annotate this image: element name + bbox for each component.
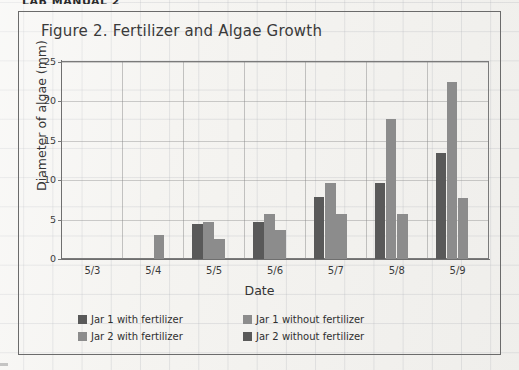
scan-artifact (0, 363, 8, 366)
category-separator (305, 62, 306, 259)
x-tick-5-8: 5/8 (367, 265, 427, 276)
legend-label: Jar 2 without fertilizer (256, 331, 364, 342)
legend-swatch-icon (78, 332, 87, 341)
x-axis-title: Date (0, 283, 519, 298)
bar-5-5-series-2 (214, 239, 225, 259)
bar-5-5-series-0 (192, 224, 203, 259)
bar-5-7-series-1 (325, 183, 336, 259)
legend-swatch-icon (78, 315, 87, 324)
gridline-h-10 (62, 180, 488, 181)
bar-5-8-series-2 (397, 214, 408, 259)
bar-5-6-series-2 (275, 230, 286, 259)
category-separator (366, 62, 367, 259)
bar-5-9-series-0 (436, 153, 447, 259)
y-tick-5: 5 (30, 214, 56, 225)
x-tick-5-3: 5/3 (62, 265, 122, 276)
page-header-text: LAB MANUAL 2 (22, 0, 120, 4)
bar-5-8-series-0 (375, 183, 386, 259)
chart-legend: Jar 1 with fertilizerJar 1 without ferti… (78, 311, 408, 345)
chart-title: Figure 2. Fertilizer and Algae Growth (41, 22, 322, 40)
legend-item: Jar 2 without fertilizer (243, 331, 408, 342)
bar-5-8-series-1 (386, 119, 397, 259)
x-tick-5-7: 5/7 (306, 265, 366, 276)
x-tick-5-9: 5/9 (428, 265, 488, 276)
category-separator (122, 62, 123, 259)
legend-label: Jar 2 with fertilizer (91, 331, 183, 342)
y-axis-title: Diameter of algae (mm) (34, 31, 49, 201)
bar-5-9-series-1 (447, 82, 458, 259)
legend-label: Jar 1 with fertilizer (91, 314, 183, 325)
legend-item: Jar 2 with fertilizer (78, 331, 243, 342)
gridline-h-25 (62, 62, 488, 63)
bar-5-7-series-0 (314, 197, 325, 259)
legend-swatch-icon (243, 315, 252, 324)
y-tick-0: 0 (30, 253, 56, 264)
x-tick-5-4: 5/4 (123, 265, 183, 276)
legend-swatch-icon (243, 332, 252, 341)
category-separator (244, 62, 245, 259)
bar-5-5-series-1 (203, 222, 214, 259)
x-tick-5-6: 5/6 (245, 265, 305, 276)
gridline-h-5 (62, 220, 488, 221)
bar-5-6-series-0 (253, 222, 264, 259)
category-separator (427, 62, 428, 259)
x-tick-5-5: 5/5 (184, 265, 244, 276)
legend-row: Jar 2 with fertilizerJar 2 without ferti… (78, 328, 408, 345)
category-separator (183, 62, 184, 259)
plot-area (62, 62, 488, 259)
bar-5-7-series-2 (336, 214, 347, 259)
bar-5-9-series-2 (458, 198, 469, 259)
gridline-h-15 (62, 141, 488, 142)
bar-5-4-series-2 (154, 235, 165, 259)
legend-row: Jar 1 with fertilizerJar 1 without ferti… (78, 311, 408, 328)
gridline-h-20 (62, 101, 488, 102)
legend-item: Jar 1 with fertilizer (78, 314, 243, 325)
y-tick-mark (58, 259, 62, 260)
legend-item: Jar 1 without fertilizer (243, 314, 408, 325)
bar-5-6-series-1 (264, 214, 275, 259)
legend-label: Jar 1 without fertilizer (256, 314, 364, 325)
